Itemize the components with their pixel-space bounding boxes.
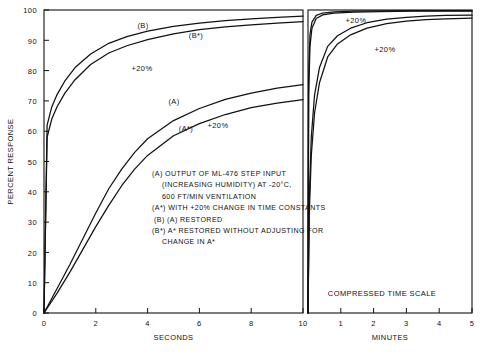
seconds-panel-x-tick-label: 0 bbox=[42, 319, 47, 328]
y-tick-label: 10 bbox=[28, 279, 37, 288]
label-plus20-r2: +20% bbox=[375, 45, 396, 54]
series-b bbox=[44, 16, 303, 313]
legend-line-1: (INCREASING HUMIDITY) AT -20°C, bbox=[162, 181, 292, 189]
seconds-panel-x-tick-label: 8 bbox=[249, 319, 254, 328]
series-bstar-right bbox=[308, 11, 472, 313]
y-tick-label: 30 bbox=[28, 218, 37, 227]
series-astar-right bbox=[308, 18, 472, 313]
seconds-panel-frame bbox=[44, 10, 303, 313]
y-tick-label: 40 bbox=[28, 188, 37, 197]
legend-line-6: CHANGE IN A* bbox=[162, 238, 215, 246]
seconds-panel-x-tick-label: 2 bbox=[94, 319, 99, 328]
minutes-panel-x-tick-label: 2 bbox=[371, 319, 376, 328]
y-tick-label: 100 bbox=[23, 6, 37, 15]
y-tick-label: 50 bbox=[28, 158, 37, 167]
legend-line-2: 600 FT/MIN VENTILATION bbox=[162, 193, 256, 201]
figure-root: 0102030405060708090100PERCENT RESPONSE02… bbox=[0, 0, 492, 355]
label-B-star: (B*) bbox=[189, 31, 204, 40]
y-tick-label: 70 bbox=[28, 97, 37, 106]
minutes-panel-x-tick-label: 1 bbox=[339, 319, 344, 328]
label-plus20-b: +20% bbox=[132, 64, 153, 73]
series-b-right bbox=[308, 11, 472, 313]
x-axis-label-right: MINUTES bbox=[372, 333, 409, 342]
legend-line-0: (A) OUTPUT OF ML-476 STEP INPUT bbox=[152, 170, 287, 178]
y-tick-label: 20 bbox=[28, 249, 37, 258]
y-tick-label: 80 bbox=[28, 67, 37, 76]
label-plus20-a: +20% bbox=[208, 121, 229, 130]
series-a-right bbox=[308, 15, 472, 313]
y-tick-label: 0 bbox=[32, 309, 37, 318]
x-axis-label-left: SECONDS bbox=[154, 333, 194, 342]
legend-line-3: (A*) WITH +20% CHANGE IN TIME CONSTANTS bbox=[152, 204, 326, 212]
label-B: (B) bbox=[137, 21, 148, 30]
minutes-panel-x-tick-label: 4 bbox=[437, 319, 442, 328]
minutes-panel-frame bbox=[308, 10, 472, 313]
seconds-panel-x-tick-label: 6 bbox=[197, 319, 202, 328]
label-A-star: (A*) bbox=[179, 124, 194, 133]
y-tick-label: 60 bbox=[28, 127, 37, 136]
minutes-panel-x-tick-label: 5 bbox=[470, 319, 475, 328]
compressed-time-scale-note: COMPRESSED TIME SCALE bbox=[328, 289, 436, 298]
chart-canvas: 0102030405060708090100PERCENT RESPONSE02… bbox=[0, 0, 492, 355]
y-axis-label: PERCENT RESPONSE bbox=[6, 119, 15, 205]
legend-line-4: (B) (A) RESTORED bbox=[154, 216, 223, 224]
seconds-panel-x-tick-label: 4 bbox=[145, 319, 150, 328]
label-A: (A) bbox=[168, 97, 179, 106]
minutes-panel-x-tick-label: 3 bbox=[404, 319, 409, 328]
y-tick-label: 90 bbox=[28, 37, 37, 46]
label-plus20-r1: +20% bbox=[346, 16, 367, 25]
legend-line-5: (B*) A* RESTORED WITHOUT ADJUSTING FOR bbox=[152, 227, 323, 235]
series-bstar bbox=[44, 22, 303, 313]
seconds-panel-x-tick-label: 10 bbox=[298, 319, 307, 328]
